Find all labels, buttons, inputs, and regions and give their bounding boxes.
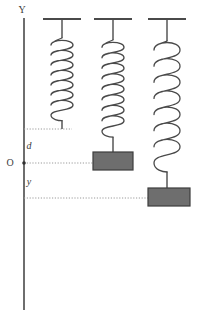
mass-block-displaced: [148, 188, 190, 206]
spring-displacement-figure: YOdy: [0, 0, 200, 323]
spring-with-block-at-origin-coils: [102, 40, 124, 137]
spring-unloaded-coils: [51, 38, 73, 121]
spring-with-block-displaced: [148, 19, 190, 206]
origin-dot: [22, 161, 26, 165]
spring-unloaded: [43, 19, 81, 129]
mass-block-origin: [93, 152, 133, 170]
y-axis-label: Y: [18, 4, 25, 15]
distance-d-label: d: [27, 140, 33, 151]
spring-with-block-displaced-coils: [154, 41, 180, 172]
spring-with-block-at-origin: [93, 19, 133, 170]
displacement-y-label: y: [26, 176, 32, 187]
origin-label: O: [6, 157, 13, 168]
figure-canvas: YOdy: [0, 0, 200, 323]
